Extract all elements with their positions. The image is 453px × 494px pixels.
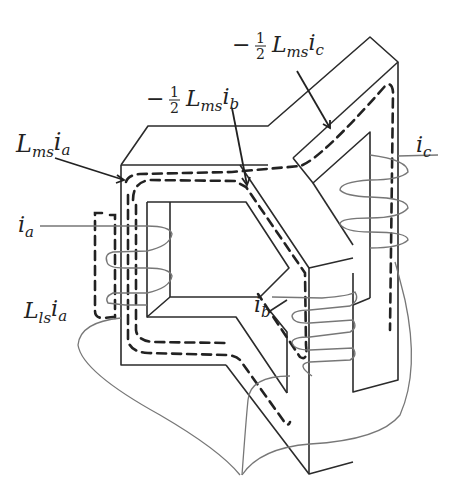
svg-text:1: 1 <box>256 30 265 46</box>
label-mutual-b: − 1 2 Lmsib <box>146 84 239 116</box>
svg-text:Lmsic: Lmsic <box>271 30 325 61</box>
label-current-b: ib <box>254 292 271 321</box>
coil-a <box>40 226 172 305</box>
svg-text:−: − <box>232 32 250 57</box>
three-phase-core-diagram: Lmsia − 1 2 Lmsib − 1 2 Lmsic Llsia ia i… <box>0 0 453 494</box>
label-current-a: ia <box>18 212 34 241</box>
label-leakage-a: Llsia <box>23 296 67 327</box>
svg-text:1: 1 <box>170 84 179 100</box>
label-mutual-c: − 1 2 Lmsic <box>232 30 325 62</box>
svg-text:−: − <box>146 86 164 111</box>
flux-paths <box>95 84 393 424</box>
coil-c <box>340 155 438 248</box>
svg-text:2: 2 <box>256 46 265 62</box>
svg-text:2: 2 <box>170 100 179 116</box>
label-mutual-a: Lmsia <box>15 128 71 161</box>
svg-text:Lmsib: Lmsib <box>185 84 239 115</box>
label-current-c: ic <box>416 132 432 161</box>
